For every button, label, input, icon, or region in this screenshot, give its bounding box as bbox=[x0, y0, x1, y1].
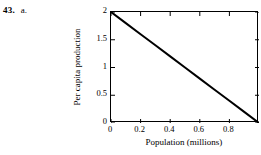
x-tick-label: 0.2 bbox=[134, 125, 145, 134]
plot-area bbox=[110, 11, 258, 122]
x-axis-tick-labels: 00.20.40.60.8 bbox=[0, 125, 261, 137]
x-tick-label: 0 bbox=[108, 125, 112, 134]
chart-figure: Per capita production 00.511.52 00.20.40… bbox=[0, 0, 261, 155]
y-axis-title-container: Per capita production bbox=[70, 11, 84, 122]
plot-svg bbox=[111, 12, 259, 123]
series-line-0 bbox=[111, 12, 259, 123]
y-axis-title: Per capita production bbox=[72, 28, 83, 105]
x-axis-title: Population (millions) bbox=[110, 137, 258, 148]
x-tick-label: 0.6 bbox=[193, 125, 204, 134]
x-tick-label: 0.8 bbox=[223, 125, 234, 134]
y-tick-label: 2 bbox=[103, 6, 107, 15]
y-tick-label: 1 bbox=[103, 62, 107, 71]
x-tick-label: 0.4 bbox=[164, 125, 175, 134]
y-tick-label: 1.5 bbox=[96, 34, 107, 43]
y-tick-label: 0.5 bbox=[96, 89, 107, 98]
data-series bbox=[111, 12, 259, 123]
